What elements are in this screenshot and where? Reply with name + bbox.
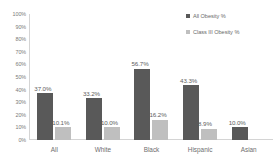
bar-slot <box>55 127 71 140</box>
legend-item[interactable]: All Obesity % <box>186 12 274 20</box>
bar[interactable] <box>55 127 71 140</box>
bar-slot <box>152 120 168 140</box>
bar-group: 37.0%10.1% <box>30 14 79 140</box>
y-axis-tick-label: 50% <box>16 74 27 80</box>
bar[interactable] <box>37 93 53 140</box>
bar-slot <box>232 127 248 140</box>
legend-item[interactable]: Class III Obesity % <box>186 28 274 36</box>
bar-slot <box>134 69 150 140</box>
y-axis: 0%10%20%30%40%50%60%70%80%90%100% <box>0 14 28 140</box>
legend-label: Class III Obesity % <box>193 29 239 35</box>
bar[interactable] <box>152 120 168 140</box>
y-axis-tick-label: 10% <box>16 124 27 130</box>
bar-value-label: 10.1% <box>52 119 69 126</box>
y-axis-tick-label: 0% <box>18 137 26 143</box>
bar-value-label: 33.2% <box>83 90 100 97</box>
chart-legend: All Obesity %Class III Obesity % <box>186 12 274 44</box>
bar-value-label: 56.7% <box>131 60 148 67</box>
bar[interactable] <box>134 69 150 140</box>
x-axis-tick-label: Black <box>144 146 160 153</box>
legend-label: All Obesity % <box>193 13 226 19</box>
bar-group: 33.2%10.0% <box>79 14 128 140</box>
y-axis-tick-label: 30% <box>16 99 27 105</box>
bar-value-label: 43.3% <box>180 77 197 84</box>
y-axis-tick-label: 100% <box>13 11 26 17</box>
y-axis-tick-label: 80% <box>16 36 27 42</box>
bar-value-label: 10.0% <box>101 119 118 126</box>
bar[interactable] <box>232 127 248 140</box>
bar-value-label: 37.0% <box>34 85 51 92</box>
bar[interactable] <box>183 85 199 140</box>
bar[interactable] <box>201 129 217 140</box>
y-axis-tick-label: 60% <box>16 61 27 67</box>
bar-slot <box>183 85 199 140</box>
x-axis-tick-label: Hispanic <box>188 146 213 153</box>
y-axis-tick-label: 40% <box>16 87 27 93</box>
bar-slot <box>86 98 102 140</box>
bar[interactable] <box>104 127 120 140</box>
legend-swatch-icon <box>186 14 190 18</box>
bar-slot <box>104 127 120 140</box>
y-axis-tick-label: 20% <box>16 112 27 118</box>
y-axis-tick-label: 70% <box>16 49 27 55</box>
bar-slot <box>201 129 217 140</box>
x-axis-tick-label: White <box>95 146 111 153</box>
bar-slot <box>37 93 53 140</box>
x-axis-tick-label: Asian <box>241 146 257 153</box>
bar-group: 56.7%16.2% <box>127 14 176 140</box>
bar[interactable] <box>86 98 102 140</box>
bar-value-label: 16.2% <box>149 111 166 118</box>
bar-value-label: 10.0% <box>229 119 246 126</box>
bar-chart: 0%10%20%30%40%50%60%70%80%90%100% 37.0%1… <box>0 0 276 167</box>
x-axis: AllWhiteBlackHispanicAsian <box>30 146 273 160</box>
bar-value-label: 8.9% <box>198 120 212 127</box>
legend-swatch-icon <box>186 30 190 34</box>
y-axis-tick-label: 90% <box>16 24 27 30</box>
x-axis-tick-label: All <box>51 146 58 153</box>
